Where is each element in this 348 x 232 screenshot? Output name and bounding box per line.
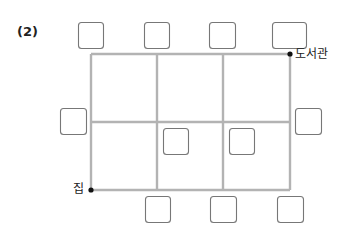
- answer-box-bottom-1[interactable]: [146, 197, 171, 223]
- grid-map: [0, 0, 348, 232]
- answer-box-top-4[interactable]: [273, 23, 307, 49]
- answer-box-top-2[interactable]: [145, 23, 170, 49]
- answer-box-inner-1[interactable]: [164, 129, 189, 155]
- answer-box-right-1[interactable]: [296, 109, 322, 135]
- library-label: 도서관: [295, 48, 328, 60]
- answer-box-top-1[interactable]: [79, 23, 104, 49]
- home-dot-icon: [88, 187, 93, 192]
- library-dot-icon: [287, 51, 292, 56]
- answer-box-top-3[interactable]: [210, 23, 236, 49]
- answer-box-left-1[interactable]: [61, 109, 87, 135]
- route-diagram: (2) 집 도서관: [0, 0, 348, 232]
- home-label: 집: [73, 183, 84, 195]
- answer-box-bottom-3[interactable]: [278, 197, 304, 223]
- answer-box-inner-2[interactable]: [230, 129, 255, 155]
- answer-box-bottom-2[interactable]: [211, 197, 237, 223]
- street-grid: [91, 54, 290, 190]
